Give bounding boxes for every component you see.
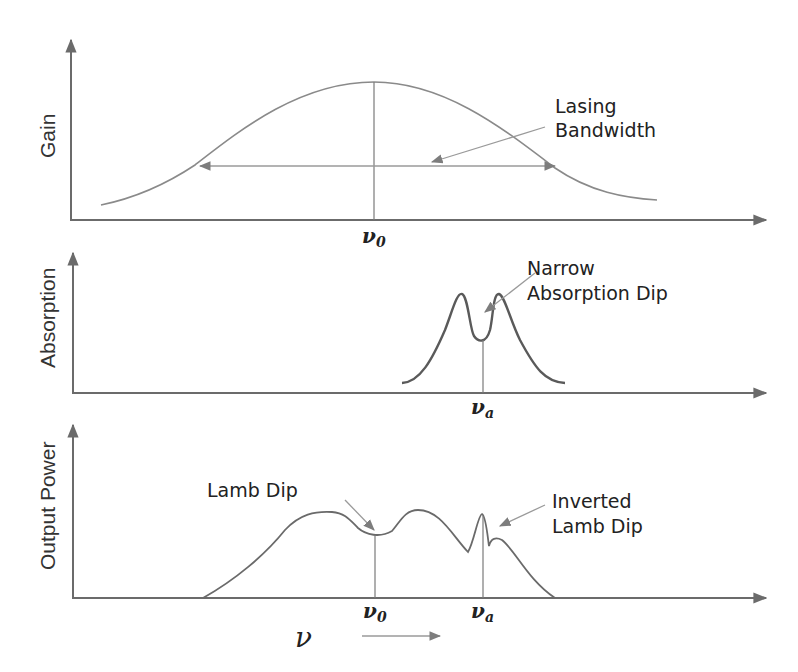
frequency-axis-label: ν — [295, 621, 440, 654]
gain-panel: Gain Lasing Bandwidth ν0 — [36, 40, 766, 250]
inverted-lamb-dip-label: Inverted — [552, 490, 632, 512]
lamb-dip-figure: Gain Lasing Bandwidth ν0 Absorption Narr… — [0, 0, 798, 672]
gain-y-label: Gain — [36, 114, 59, 158]
lamb-dip-pointer — [345, 500, 374, 530]
output-power-y-label: Output Power — [36, 442, 59, 570]
inverted-lamb-dip-label-2: Lamb Dip — [552, 515, 643, 537]
lasing-bandwidth-pointer — [432, 127, 545, 162]
absorption-dip-label: Narrow — [527, 257, 595, 279]
lamb-dip-label: Lamb Dip — [207, 479, 298, 501]
nu-symbol: ν — [295, 621, 312, 654]
inverted-lamb-dip-pointer — [500, 505, 545, 526]
output-power-curve — [203, 510, 555, 598]
output-nua-label: νa — [471, 599, 494, 625]
output-nu0-label: ν0 — [363, 599, 387, 625]
output-power-panel: Output Power Lamb Dip Inverted Lamb Dip … — [36, 425, 766, 625]
lasing-bandwidth-label: Lasing — [555, 95, 617, 117]
nua-label: νa — [471, 395, 494, 421]
absorption-y-label: Absorption — [36, 268, 59, 368]
lasing-bandwidth-label-2: Bandwidth — [555, 119, 656, 141]
nu0-label: ν0 — [362, 224, 386, 250]
absorption-panel: Absorption Narrow Absorption Dip νa — [36, 253, 766, 421]
absorption-dip-label-2: Absorption Dip — [527, 282, 668, 304]
